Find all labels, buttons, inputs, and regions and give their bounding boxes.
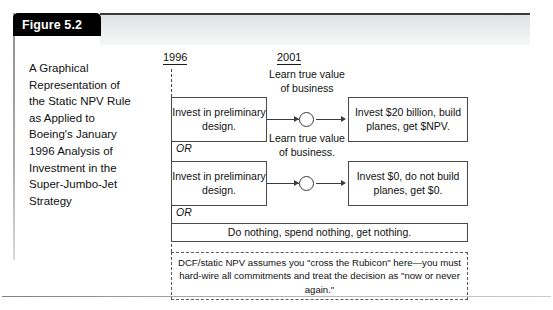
branch-3-do-nothing-box: Do nothing, spend nothing, get nothing. xyxy=(171,223,468,242)
arrowhead-to-outcome-icon xyxy=(341,116,346,122)
figure-panel: Figure 5.2 A Graphical Representation of… xyxy=(13,13,530,278)
or-separator-1: OR xyxy=(176,142,192,154)
branch-2-connector xyxy=(267,178,348,189)
figure-number-label: Figure 5.2 xyxy=(13,18,82,32)
figure-caption: A Graphical Representation of the Static… xyxy=(29,60,133,209)
branch-1-connector xyxy=(267,114,348,125)
branch-1-event-label: Learn true value of business xyxy=(267,68,347,95)
figure-container: Figure 5.2 A Graphical Representation of… xyxy=(0,0,553,310)
branch-2-action-box: Invest in preliminary design. xyxy=(171,161,267,206)
chance-node-circle-icon xyxy=(299,112,314,127)
timeline-year-end: 2001 xyxy=(277,51,301,65)
annotation-note-text: DCF/static NPV assumes you "cross the Ru… xyxy=(172,256,467,296)
page-bottom-rule xyxy=(2,296,551,297)
branch-2-event-label: Learn true value of business. xyxy=(267,132,347,159)
timeline-year-start: 1996 xyxy=(163,51,187,65)
branch-2-outcome-box: Invest $0, do not build planes, get $0. xyxy=(348,161,468,206)
arrowhead-to-outcome-icon xyxy=(341,180,346,186)
annotation-note-box: DCF/static NPV assumes you "cross the Ru… xyxy=(171,252,468,300)
panel-left-rule xyxy=(13,13,15,260)
figure-number-tab: Figure 5.2 xyxy=(13,13,101,36)
chance-node-circle-icon xyxy=(299,176,314,191)
connector-segment-right xyxy=(316,119,341,120)
branch-1-outcome-box: Invest $20 billion, build planes, get $N… xyxy=(348,97,468,142)
connector-segment-right xyxy=(316,183,341,184)
or-separator-2: OR xyxy=(176,206,192,218)
timeline-dashed-upper xyxy=(171,69,172,97)
decision-tree-diagram: 1996 2001 Invest in preliminary design. … xyxy=(146,41,536,291)
branch-1-action-box: Invest in preliminary design. xyxy=(171,97,267,142)
